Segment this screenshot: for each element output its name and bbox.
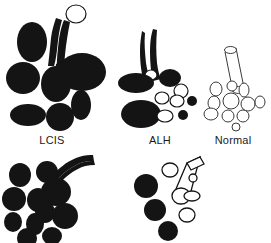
lobule-filled [144, 199, 166, 221]
lobule-filled [71, 90, 91, 120]
lobule-open [155, 92, 169, 104]
panel-alh-top [115, 25, 207, 135]
lobule-open [204, 108, 218, 120]
lobule-open [237, 110, 249, 122]
lobule-filled [10, 104, 46, 126]
lobule-filled [42, 227, 62, 243]
lobule-open [170, 95, 184, 107]
lobule-filled [2, 187, 26, 211]
lobule-filled [35, 201, 55, 223]
panel-lcis-top [0, 0, 110, 135]
lobule-filled [121, 100, 161, 128]
lobule-filled [134, 174, 158, 198]
panel-normal-top [200, 45, 271, 135]
lobule-filled [158, 221, 178, 241]
panel-label-lcis: LCIS [22, 134, 82, 146]
lobule-filled [41, 66, 71, 102]
lobule-filled [52, 203, 78, 229]
lobule-open [189, 174, 197, 182]
lobule-open [232, 123, 240, 131]
lobule-open [157, 110, 173, 122]
lobule-open [179, 208, 195, 222]
lobule-filled [9, 163, 31, 187]
pathology-figure: LCIS ALH Normal [0, 0, 271, 243]
lobule-open [184, 191, 200, 201]
panel-alh-bottom [130, 152, 220, 243]
lobule-filled [6, 62, 40, 94]
lobule-filled [17, 22, 47, 62]
lobule-open [210, 82, 222, 96]
lobule-filled-small [187, 96, 197, 106]
lobule-open [255, 96, 265, 108]
lobule-open [227, 81, 237, 91]
duct-terminus-open-circle-lcis [66, 5, 86, 23]
lobule-filled-small [178, 110, 188, 120]
lobule-open [222, 110, 234, 122]
lobule-open [239, 83, 249, 97]
lobule-filled [118, 73, 154, 93]
lobule-open [241, 97, 255, 111]
lobule-filled [4, 212, 22, 232]
lobule-open [162, 163, 178, 177]
panel-label-alh: ALH [132, 134, 188, 146]
lobule-open [223, 93, 239, 109]
panel-label-normal: Normal [202, 134, 264, 146]
lobule-filled [46, 103, 74, 131]
panel-lcis-bottom [0, 152, 110, 243]
